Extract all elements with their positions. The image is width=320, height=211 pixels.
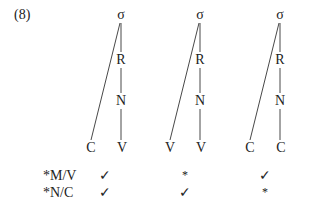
constraint-label: *M/V: [43, 169, 76, 183]
left-leaf: C: [86, 141, 95, 155]
violation-star-icon: *: [262, 186, 268, 198]
nucleus-node: N: [195, 94, 205, 108]
nucleus-node: N: [275, 94, 285, 108]
nucleus-node: N: [116, 94, 126, 108]
right-leaf: V: [117, 141, 127, 155]
constraint-label: *N/C: [43, 186, 73, 200]
right-leaf: V: [196, 141, 206, 155]
check-mark-icon: ✓: [179, 186, 191, 200]
right-leaf: C: [276, 141, 285, 155]
rime-node: R: [116, 53, 125, 67]
rime-node: R: [275, 53, 284, 67]
check-mark-icon: ✓: [99, 169, 111, 183]
rime-node: R: [195, 53, 204, 67]
sigma-node: σ: [276, 8, 284, 22]
check-mark-icon: ✓: [99, 186, 111, 200]
violation-star-icon: *: [182, 169, 188, 181]
left-leaf: C: [245, 141, 254, 155]
check-mark-icon: ✓: [259, 169, 271, 183]
sigma-node: σ: [117, 8, 125, 22]
sigma-node: σ: [196, 8, 204, 22]
left-leaf: V: [165, 141, 175, 155]
